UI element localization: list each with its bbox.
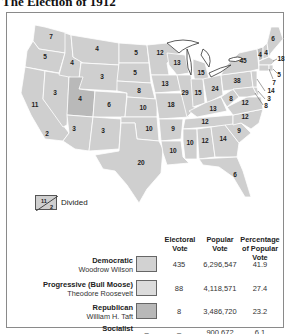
state-label-il: 29 [181, 89, 189, 96]
state-label-fl: 6 [233, 171, 237, 178]
state-label-nc: 12 [241, 113, 249, 120]
state-label-ut: 4 [78, 95, 82, 102]
party-name: Republican [87, 303, 134, 312]
party-name: Socialist [81, 324, 133, 333]
state-label-nm: 3 [101, 127, 105, 134]
state-label-me: 6 [271, 35, 275, 42]
header-popular-vote: Popular Vote [203, 235, 237, 253]
table-row-republican: Republican William H. Taft 8 3,486,720 2… [7, 302, 285, 324]
state-label-pa: 38 [233, 77, 241, 84]
map-figure: 7 5 11 2 3 4 4 3 4 6 3 3 5 5 8 10 10 20 … [6, 12, 284, 328]
state-fl [199, 157, 251, 197]
state-label-sc: 9 [237, 127, 241, 134]
state-label-id: 4 [70, 59, 74, 66]
state-label-ar: 9 [171, 125, 175, 132]
svg-text:2: 2 [50, 204, 53, 210]
state-label-ky: 13 [209, 105, 217, 112]
state-label-wv: 8 [229, 95, 233, 102]
party-cell: Republican William H. Taft [87, 303, 134, 321]
state-label-mt: 4 [95, 45, 99, 52]
candidate-name: Theodore Roosevelt [43, 289, 133, 298]
state-label-wa: 7 [49, 33, 53, 40]
electoral-vote: – [163, 328, 195, 334]
popular-vote: 6,296,547 [199, 260, 241, 269]
state-label-vt: 4 [258, 51, 262, 58]
candidate-name: William H. Taft [87, 312, 134, 321]
electoral-vote: 88 [163, 284, 195, 293]
state-label-or: 5 [43, 53, 47, 60]
state-label-la: 10 [169, 147, 177, 154]
state-label-md: 8 [264, 102, 268, 109]
party-cell: Socialist Eugene V. Debs [81, 324, 133, 334]
state-label-sd: 5 [133, 69, 137, 76]
state-label-mi: 15 [197, 69, 205, 76]
state-label-ma: 18 [277, 55, 285, 62]
state-label-mn: 12 [156, 49, 164, 56]
table-row-democratic: Democratic Woodrow Wilson 435 6,296,547 … [7, 254, 285, 276]
legend-divided: 11 2 Divided [35, 195, 88, 210]
state-label-ny: 45 [239, 57, 247, 64]
state-label-nj: 14 [267, 87, 275, 94]
popular-vote: 900,672 [199, 328, 241, 334]
state-label-oh: 24 [211, 85, 219, 92]
percentage: 27.4 [243, 284, 277, 293]
state-label-ri: 5 [277, 71, 281, 78]
divided-swatch: 11 2 [35, 195, 57, 210]
popular-vote: 3,486,720 [199, 307, 241, 316]
header-electoral-vote: Electoral Vote [163, 235, 197, 253]
state-label-al: 12 [201, 137, 209, 144]
state-ct [259, 65, 269, 71]
percentage: 23.2 [243, 307, 277, 316]
state-label-nh: 4 [264, 49, 268, 56]
table-row-progressive: Progressive (Bull Moose) Theodore Roosev… [7, 278, 285, 300]
state-label-ok: 10 [145, 125, 153, 132]
state-label-co: 6 [107, 101, 111, 108]
state-label-ms: 10 [186, 139, 194, 146]
state-label-ne: 8 [137, 87, 141, 94]
popular-vote: 4,118,571 [199, 284, 241, 293]
state-label-nv: 3 [53, 89, 57, 96]
party-name: Progressive (Bull Moose) [43, 280, 133, 289]
state-nm [89, 117, 121, 151]
page-title: The Election of 1912 [2, 0, 116, 10]
diagonal-split-icon: 11 2 [36, 196, 58, 211]
state-label-tn: 12 [201, 118, 209, 125]
state-label-ct: 7 [272, 79, 276, 86]
state-label-de: 3 [267, 95, 271, 102]
state-label-ca: 11 [32, 101, 39, 108]
state-label-ga: 14 [219, 135, 227, 142]
state-label-ks: 10 [139, 104, 147, 111]
state-wy [79, 63, 119, 91]
swatch-placeholder: – [136, 328, 157, 334]
table-row-socialist: Socialist Eugene V. Debs – – 900,672 6.1 [7, 324, 285, 334]
party-cell: Democratic Woodrow Wilson [78, 256, 133, 274]
leader-nj [257, 79, 265, 91]
party-cell: Progressive (Bull Moose) Theodore Roosev… [43, 280, 133, 298]
party-color-swatch [136, 303, 157, 319]
party-name: Democratic [78, 256, 133, 265]
electoral-vote: 8 [163, 307, 195, 316]
state-label-tx: 20 [137, 159, 145, 166]
party-color-swatch [136, 280, 157, 296]
divided-label: Divided [61, 198, 88, 207]
state-label-nd: 5 [134, 49, 138, 56]
state-label-va: 12 [241, 99, 249, 106]
svg-text:11: 11 [41, 198, 47, 204]
state-label-wi: 13 [173, 59, 181, 66]
percentage: 41.9 [243, 260, 277, 269]
state-me [267, 27, 283, 57]
state-label-ia: 13 [161, 80, 169, 87]
percentage: 6.1 [243, 328, 277, 334]
state-label-az: 3 [72, 125, 76, 132]
candidate-name: Woodrow Wilson [78, 265, 133, 274]
state-label-mo: 18 [167, 101, 175, 108]
party-color-swatch [136, 256, 157, 272]
state-label-in: 15 [194, 89, 202, 96]
state-label-wy: 3 [100, 73, 104, 80]
electoral-vote: 435 [163, 260, 195, 269]
state-label-ca-divided: 2 [45, 130, 49, 137]
